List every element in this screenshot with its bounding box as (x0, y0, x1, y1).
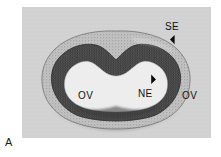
arrowhead-se-icon (169, 35, 178, 45)
micrograph-panel: SE NE OV OV (22, 7, 211, 138)
label-ov-left: OV (78, 91, 93, 101)
panel-letter: A (5, 137, 12, 148)
label-ne: NE (138, 89, 153, 99)
label-se: SE (165, 22, 179, 32)
embryo-section-image (22, 7, 211, 138)
arrowhead-ne-icon (148, 74, 157, 84)
figure-root: SE NE OV OV A (0, 0, 221, 157)
label-ov-right: OV (182, 91, 197, 101)
